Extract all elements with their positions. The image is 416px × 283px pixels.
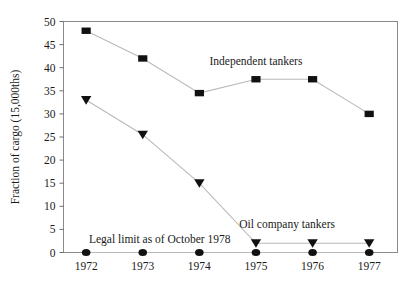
data-point-0-1974 <box>195 90 204 96</box>
data-point-0-1972 <box>82 28 91 34</box>
x-tick-label-1972: 1972 <box>75 260 98 272</box>
y-tick-label-50: 50 <box>44 16 56 28</box>
y-tick-label-45: 45 <box>44 39 56 51</box>
y-tick-label-30: 30 <box>44 108 56 120</box>
data-point-2-1975 <box>252 249 261 256</box>
data-point-0-1977 <box>365 111 374 117</box>
data-point-0-1976 <box>308 76 317 82</box>
y-tick-label-5: 5 <box>50 223 56 235</box>
y-tick-label-15: 15 <box>44 177 56 189</box>
y-tick-label-0: 0 <box>50 247 56 259</box>
y-tick-label-40: 40 <box>44 62 56 74</box>
y-tick-label-10: 10 <box>44 200 56 212</box>
x-tick-label-1976: 1976 <box>301 260 324 272</box>
y-axis-ticks <box>60 22 64 253</box>
y-axis-title: Fraction of cargo (15,000ths) <box>9 70 22 205</box>
annotation-2: Legal limit as of October 1978 <box>89 233 231 246</box>
data-point-2-1973 <box>138 249 147 256</box>
data-point-0-1973 <box>138 55 147 61</box>
annotation-1: Oil company tankers <box>239 218 335 231</box>
chart-figure: 05101520253035404550 1972197319741975197… <box>0 0 416 283</box>
x-tick-label-1977: 1977 <box>358 260 381 272</box>
annotation-0: Independent tankers <box>210 55 303 68</box>
data-point-2-1977 <box>365 249 374 256</box>
y-tick-label-20: 20 <box>44 154 56 166</box>
x-tick-label-1974: 1974 <box>188 260 211 272</box>
data-point-2-1976 <box>308 249 317 256</box>
y-tick-label-35: 35 <box>44 85 56 97</box>
data-point-0-1975 <box>251 76 260 82</box>
x-tick-label-1973: 1973 <box>131 260 154 272</box>
data-point-2-1974 <box>195 249 204 256</box>
y-tick-label-25: 25 <box>44 131 56 143</box>
x-tick-label-1975: 1975 <box>244 260 267 272</box>
data-point-2-1972 <box>82 249 91 256</box>
y-axis-tick-labels: 05101520253035404550 <box>44 16 56 259</box>
chart-canvas: 05101520253035404550 1972197319741975197… <box>0 0 416 283</box>
x-axis-tick-labels: 197219731974197519761977 <box>75 260 381 272</box>
